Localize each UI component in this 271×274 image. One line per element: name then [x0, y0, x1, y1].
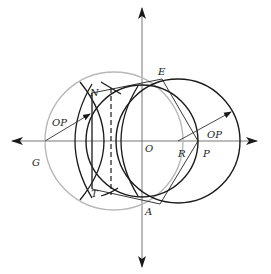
label-r: R: [177, 148, 186, 159]
label-o: O: [145, 143, 153, 154]
label-op-left: OP: [52, 117, 67, 128]
label-t: T: [91, 188, 99, 199]
label-g: G: [32, 157, 40, 168]
pentagon-construction-diagram: N E O P R A T G OP OP: [0, 0, 271, 274]
label-p: P: [202, 148, 210, 159]
op-arrow-right: [178, 112, 231, 141]
label-e: E: [157, 66, 166, 77]
label-op-right: OP: [207, 129, 222, 140]
label-a: A: [144, 206, 152, 217]
label-n: N: [89, 87, 100, 98]
